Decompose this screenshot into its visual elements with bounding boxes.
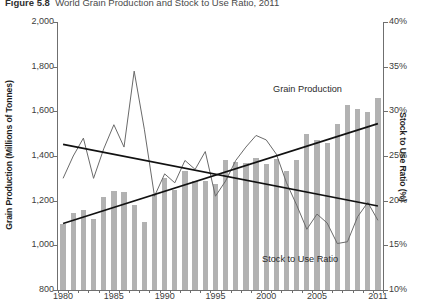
grain-production-trendline xyxy=(63,124,378,224)
stock-to-use-ratio-line xyxy=(63,71,378,243)
series-overlay xyxy=(0,0,423,306)
figure-container: Figure 5.8 World Grain Production and St… xyxy=(0,0,423,306)
stock-to-use-ratio-trendline xyxy=(63,144,378,206)
